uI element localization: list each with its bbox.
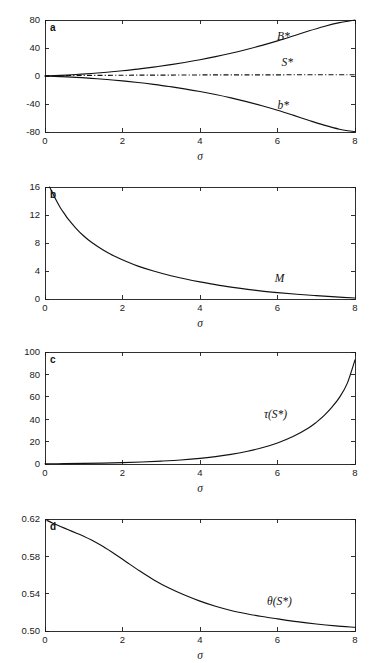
curve-label-a-1: S* — [281, 56, 293, 68]
xticklabel-a-1: 2 — [120, 135, 125, 146]
xticklabel-a-4: 8 — [352, 135, 357, 146]
plot-box-frame-a — [45, 20, 355, 132]
panel-b: 024680481216σbM — [0, 166, 377, 332]
xticklabel-d-3: 6 — [275, 634, 280, 645]
xticklabel-c-2: 4 — [197, 467, 202, 478]
plot-box-frame-d — [45, 519, 355, 631]
xticklabel-c-0: 0 — [42, 467, 47, 478]
panel-c: 02468020406080100σcτ(S*) — [0, 332, 377, 498]
yticklabel-b-2: 8 — [35, 237, 40, 248]
yticklabel-d-3: 0.62 — [22, 513, 41, 524]
curve-label-b-0: M — [274, 272, 286, 284]
yticklabel-d-2: 0.58 — [22, 551, 41, 562]
curve-d-thetaS — [47, 520, 355, 627]
plot-box-frame-c — [45, 352, 355, 464]
curve-b-M — [50, 187, 355, 298]
yticklabel-a-4: 80 — [29, 14, 40, 25]
yticklabel-c-5: 100 — [24, 346, 40, 357]
yticklabel-a-3: 40 — [29, 42, 40, 53]
xaxis-title-b: σ — [197, 317, 204, 329]
curve-c-tauS — [45, 360, 355, 464]
yticklabel-c-0: 0 — [35, 458, 40, 469]
xticklabel-d-2: 4 — [197, 634, 202, 645]
yticklabel-a-2: 0 — [35, 70, 40, 81]
xaxis-title-a: σ — [197, 150, 204, 162]
curve-label-a-2: b* — [278, 99, 290, 111]
xticklabel-a-2: 4 — [197, 135, 202, 146]
xticklabel-d-4: 8 — [352, 634, 357, 645]
panel-letter-a: a — [50, 22, 56, 33]
curve-a-b — [45, 76, 355, 132]
yticklabel-d-0: 0.50 — [22, 625, 41, 636]
curve-label-a-0: B* — [277, 30, 290, 42]
xaxis-title-d: σ — [197, 649, 204, 661]
xticklabel-b-4: 8 — [352, 302, 357, 313]
xaxis-title-c: σ — [197, 482, 204, 494]
xticklabel-b-2: 4 — [197, 302, 202, 313]
figure-four-panel-plot: 02468-80-4004080σaB*S*b* 024680481216σbM… — [0, 0, 377, 663]
xticklabel-a-3: 6 — [275, 135, 280, 146]
xticklabel-c-1: 2 — [120, 467, 125, 478]
xticklabel-d-1: 2 — [120, 634, 125, 645]
xticklabel-c-4: 8 — [352, 467, 357, 478]
yticklabel-a-1: -40 — [26, 98, 40, 109]
xticklabel-b-0: 0 — [42, 302, 47, 313]
xticklabel-d-0: 0 — [42, 634, 47, 645]
panel-d: 024680.500.540.580.62σdθ(S*) — [0, 498, 377, 663]
curve-label-d-0: θ(S*) — [267, 595, 292, 608]
plot-area-d: 024680.500.540.580.62σdθ(S*) — [0, 498, 377, 663]
xticklabel-b-3: 6 — [275, 302, 280, 313]
plot-area-a: 02468-80-4004080σaB*S*b* — [0, 0, 377, 166]
panel-letter-c: c — [50, 354, 56, 365]
yticklabel-b-1: 4 — [35, 265, 40, 276]
xticklabel-c-3: 6 — [275, 467, 280, 478]
yticklabel-c-3: 60 — [29, 391, 40, 402]
plot-area-c: 02468020406080100σcτ(S*) — [0, 332, 377, 498]
yticklabel-c-2: 40 — [29, 414, 40, 425]
xticklabel-a-0: 0 — [42, 135, 47, 146]
yticklabel-d-1: 0.54 — [22, 588, 41, 599]
curve-a-B — [45, 20, 355, 76]
yticklabel-b-4: 16 — [29, 181, 40, 192]
yticklabel-c-4: 80 — [29, 369, 40, 380]
panel-a: 02468-80-4004080σaB*S*b* — [0, 0, 377, 166]
yticklabel-b-0: 0 — [35, 293, 40, 304]
yticklabel-c-1: 20 — [29, 436, 40, 447]
xticklabel-b-1: 2 — [120, 302, 125, 313]
yticklabel-a-0: -80 — [26, 126, 40, 137]
yticklabel-b-3: 12 — [29, 209, 40, 220]
plot-area-b: 024680481216σbM — [0, 166, 377, 332]
curve-label-c-0: τ(S*) — [264, 408, 287, 421]
curve-a-S — [45, 75, 355, 76]
